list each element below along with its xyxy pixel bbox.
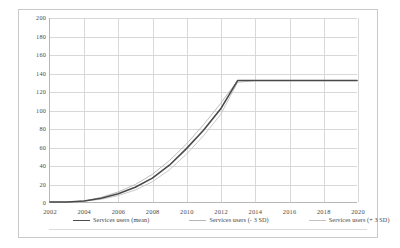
y-axis-label: 40 <box>39 163 46 169</box>
y-axis-label: 160 <box>36 52 46 58</box>
y-axis-label: 100 <box>36 107 46 113</box>
legend-line-swatch <box>309 220 326 221</box>
y-axis-label: 20 <box>39 181 46 187</box>
chart-plot-wrapper: 020406080100120140160180200 200220042006… <box>19 10 379 239</box>
series-line <box>50 81 357 202</box>
legend-item[interactable]: Services users (- 3 SD) <box>189 217 268 223</box>
legend-label: Services users (- 3 SD) <box>209 217 268 223</box>
series-lines <box>50 18 357 202</box>
plot-area: 020406080100120140160180200 200220042006… <box>49 18 357 203</box>
y-axis-label: 120 <box>36 89 46 95</box>
chart-container: 020406080100120140160180200 200220042006… <box>18 9 378 238</box>
y-axis-label: 80 <box>39 126 46 132</box>
y-axis-label: 0 <box>43 200 46 206</box>
chart-legend: Services users (mean)Services users (- 3… <box>49 212 367 228</box>
gridline-vertical <box>358 18 359 202</box>
legend-line-swatch <box>73 220 90 221</box>
y-axis-label: 140 <box>36 70 46 76</box>
series-line <box>50 81 357 202</box>
legend-divider <box>49 229 367 230</box>
legend-item[interactable]: Services users (mean) <box>73 217 149 223</box>
y-axis-label: 200 <box>36 15 46 21</box>
y-axis-label: 60 <box>39 144 46 150</box>
legend-label: Services users (mean) <box>93 217 149 223</box>
y-axis-label: 180 <box>36 33 46 39</box>
legend-item[interactable]: Services users (+ 3 SD) <box>309 217 390 223</box>
series-line <box>50 81 357 202</box>
legend-line-swatch <box>189 220 206 221</box>
legend-label: Services users (+ 3 SD) <box>329 217 390 223</box>
